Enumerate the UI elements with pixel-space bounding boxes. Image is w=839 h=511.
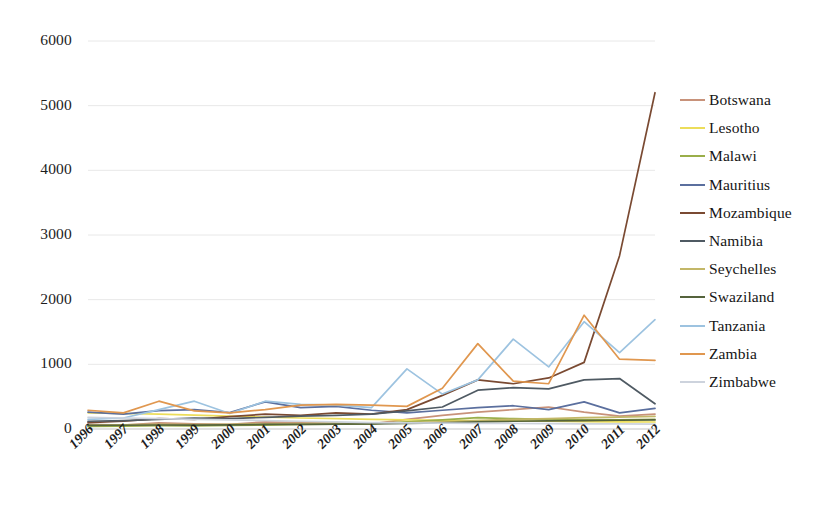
legend-item-label: Lesotho	[709, 119, 760, 137]
y-axis-tick-label: 5000	[14, 96, 72, 114]
y-axis-tick-label: 0	[14, 419, 72, 437]
legend-item-label: Malawi	[709, 147, 757, 165]
y-axis-tick-label: 6000	[14, 31, 72, 49]
legend-item-tanzania[interactable]: Tanzania	[680, 312, 838, 340]
legend-color-swatch-icon	[680, 240, 705, 242]
legend-item-label: Zimbabwe	[709, 373, 776, 391]
legend-color-swatch-icon	[680, 268, 705, 270]
legend-item-swaziland[interactable]: Swaziland	[680, 283, 838, 311]
legend-item-namibia[interactable]: Namibia	[680, 227, 838, 255]
y-axis-tick-label: 2000	[14, 290, 72, 308]
legend-color-swatch-icon	[680, 127, 705, 129]
legend-color-swatch-icon	[680, 325, 705, 327]
legend-item-label: Namibia	[709, 232, 763, 250]
line-chart: 6000500040003000200010000 19961997199819…	[0, 0, 839, 511]
legend-color-swatch-icon	[680, 296, 705, 298]
legend-color-swatch-icon	[680, 99, 705, 101]
legend-item-malawi[interactable]: Malawi	[680, 142, 838, 170]
legend-color-swatch-icon	[680, 212, 705, 214]
legend-item-seychelles[interactable]: Seychelles	[680, 255, 838, 283]
legend-item-botswana[interactable]: Botswana	[680, 86, 838, 114]
y-axis-tick-label: 3000	[14, 225, 72, 243]
legend-item-zimbabwe[interactable]: Zimbabwe	[680, 368, 838, 396]
legend-item-label: Tanzania	[709, 317, 766, 335]
legend-item-mauritius[interactable]: Mauritius	[680, 171, 838, 199]
legend-item-lesotho[interactable]: Lesotho	[680, 114, 838, 142]
y-axis-tick-label: 4000	[14, 160, 72, 178]
legend-color-swatch-icon	[680, 381, 705, 383]
chart-legend: BotswanaLesothoMalawiMauritiusMozambique…	[680, 86, 838, 396]
legend-item-label: Botswana	[709, 91, 771, 109]
y-axis-tick-label: 1000	[14, 354, 72, 372]
legend-item-label: Mozambique	[709, 204, 792, 222]
series-line-mozambique	[88, 93, 655, 423]
legend-item-zambia[interactable]: Zambia	[680, 340, 838, 368]
legend-color-swatch-icon	[680, 184, 705, 186]
legend-item-label: Swaziland	[709, 288, 774, 306]
legend-item-label: Seychelles	[709, 260, 776, 278]
legend-color-swatch-icon	[680, 155, 705, 157]
legend-item-label: Mauritius	[709, 176, 770, 194]
legend-item-label: Zambia	[709, 345, 757, 363]
legend-color-swatch-icon	[680, 353, 705, 355]
legend-item-mozambique[interactable]: Mozambique	[680, 199, 838, 227]
